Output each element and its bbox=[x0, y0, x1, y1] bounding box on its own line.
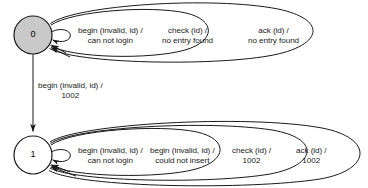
transition-0-to-1-label: begin (invalid, id) / 1002 bbox=[38, 81, 103, 100]
loop-1-ack-event: ack (id) / bbox=[296, 146, 327, 156]
state-machine-diagram: 0 1 begin (invalid, id) / can not login … bbox=[0, 0, 368, 188]
loop-0-check-event: check (id) / bbox=[162, 26, 213, 36]
loop-1-begin-insert-response: could not insert bbox=[150, 156, 215, 166]
loop-0-return-arrowhead-b bbox=[51, 48, 70, 58]
loop-0-ack-response: no entry found bbox=[248, 36, 299, 46]
transition-0-to-1-response: 1002 bbox=[38, 91, 103, 101]
state-0-label: 0 bbox=[23, 29, 43, 39]
loop-1-begin-login-response: can not login bbox=[78, 156, 143, 166]
loop-1-begin-insert-event: begin (invalid, id) / bbox=[150, 146, 215, 156]
loop-1-begin-login-label: begin (invalid, id) / can not login bbox=[78, 146, 143, 165]
loop-1-begin-login-arc bbox=[52, 150, 70, 162]
loop-0-begin-arc bbox=[52, 30, 70, 42]
loop-1-check-event: check (id) / bbox=[232, 146, 271, 156]
loop-0-begin-response: can not login bbox=[78, 36, 143, 46]
loop-0-begin-label: begin (invalid, id) / can not login bbox=[78, 26, 143, 45]
transition-0-to-1-event: begin (invalid, id) / bbox=[38, 81, 103, 91]
loop-1-check-label: check (id) / 1002 bbox=[232, 146, 271, 165]
loop-1-ack-label: ack (id) / 1002 bbox=[296, 146, 327, 165]
loop-0-check-label: check (id) / no entry found bbox=[162, 26, 213, 45]
loop-1-ack-response: 1002 bbox=[296, 156, 327, 166]
loop-1-begin-insert-label: begin (invalid, id) / could not insert bbox=[150, 146, 215, 165]
loop-0-begin-event: begin (invalid, id) / bbox=[78, 26, 143, 36]
loop-0-ack-label: ack (id) / no entry found bbox=[248, 26, 299, 45]
loop-1-begin-login-event: begin (invalid, id) / bbox=[78, 146, 143, 156]
loop-0-ack-event: ack (id) / bbox=[248, 26, 299, 36]
loop-0-check-response: no entry found bbox=[162, 36, 213, 46]
loop-1-check-response: 1002 bbox=[232, 156, 271, 166]
state-1-label: 1 bbox=[23, 149, 43, 159]
